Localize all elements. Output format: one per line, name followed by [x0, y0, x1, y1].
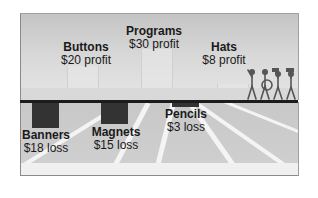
label-banners: Banners $18 loss: [18, 129, 74, 155]
category-value: $15 loss: [86, 139, 146, 152]
bar-banners: [32, 103, 59, 128]
label-programs: Programs $30 profit: [122, 25, 186, 51]
label-hats: Hats $8 profit: [196, 41, 252, 67]
label-buttons: Buttons $20 profit: [58, 41, 114, 67]
category-value: $18 loss: [18, 142, 74, 155]
track-edge: [21, 163, 298, 175]
category-value: $20 profit: [58, 54, 114, 67]
label-pencils: Pencils $3 loss: [158, 108, 214, 134]
marching-band-illustration-icon: [245, 66, 305, 101]
category-value: $8 profit: [196, 54, 252, 67]
category-value: $30 profit: [122, 38, 186, 51]
bar-magnets: [101, 103, 128, 124]
track-lane: [221, 102, 299, 147]
label-magnets: Magnets $15 loss: [86, 126, 146, 152]
category-value: $3 loss: [158, 121, 214, 134]
